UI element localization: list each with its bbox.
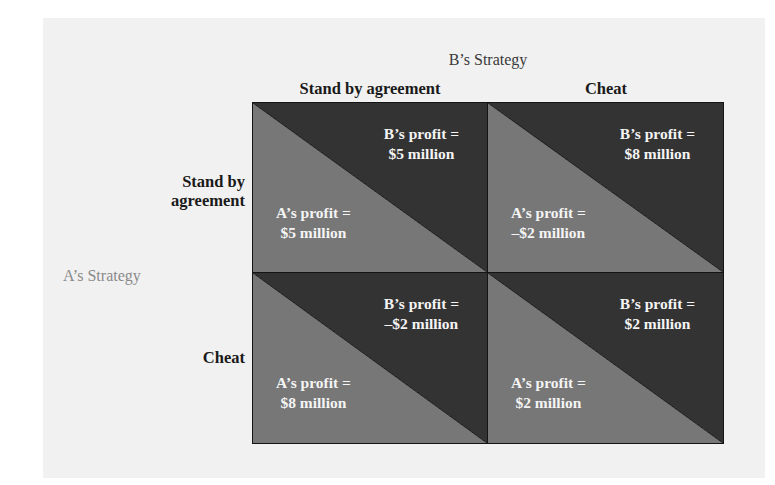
a-profit: A’s profit = –$2 million [511, 203, 586, 243]
a-profit-value: $2 million [511, 393, 586, 413]
a-profit: A’s profit = $5 million [276, 203, 351, 243]
a-profit-label: A’s profit = [511, 203, 586, 223]
b-profit: B’s profit = $5 million [384, 124, 459, 164]
a-profit-label: A’s profit = [511, 373, 586, 393]
a-profit: A’s profit = $2 million [511, 373, 586, 413]
row-header-stand-by-agreement: Stand by agreement [145, 172, 245, 210]
b-profit: B’s profit = $2 million [620, 294, 695, 334]
column-header-cheat: Cheat [585, 79, 627, 98]
payoff-cell-stand-stand: B’s profit = $5 million A’s profit = $5 … [253, 103, 488, 273]
a-profit-value: $8 million [276, 393, 351, 413]
a-profit-value: –$2 million [511, 223, 586, 243]
row-player-title: A’s Strategy [63, 266, 141, 285]
a-profit: A’s profit = $8 million [276, 373, 351, 413]
b-profit-label: B’s profit = [620, 294, 695, 314]
a-profit-label: A’s profit = [276, 373, 351, 393]
b-profit-label: B’s profit = [620, 124, 695, 144]
b-profit-value: –$2 million [384, 314, 459, 334]
payoff-cell-cheat-cheat: B’s profit = $2 million A’s profit = $2 … [488, 273, 723, 443]
b-profit-value: $5 million [384, 144, 459, 164]
a-profit-label: A’s profit = [276, 203, 351, 223]
column-header-stand-by-agreement: Stand by agreement [300, 79, 441, 98]
payoff-matrix: B’s profit = $5 million A’s profit = $5 … [252, 102, 724, 444]
b-profit-label: B’s profit = [384, 124, 459, 144]
a-profit-value: $5 million [276, 223, 351, 243]
b-profit: B’s profit = –$2 million [384, 294, 459, 334]
payoff-cell-stand-cheat: B’s profit = $8 million A’s profit = –$2… [488, 103, 723, 273]
b-profit: B’s profit = $8 million [620, 124, 695, 164]
b-profit-value: $8 million [620, 144, 695, 164]
payoff-cell-cheat-stand: B’s profit = –$2 million A’s profit = $8… [253, 273, 488, 443]
b-profit-label: B’s profit = [384, 294, 459, 314]
b-profit-value: $2 million [620, 314, 695, 334]
row-header-cheat: Cheat [145, 348, 245, 367]
column-player-title: B’s Strategy [449, 50, 528, 69]
